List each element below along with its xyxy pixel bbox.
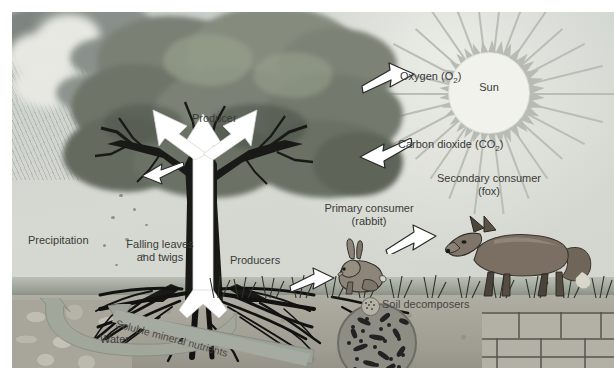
illustration-canvas: Sun Oxygen (O2) Carbon dioxide (CO2) (12, 12, 614, 368)
bacterium-dot (379, 327, 383, 331)
bacterium-dot (383, 339, 387, 343)
bacterium-rod (379, 312, 391, 324)
producers-label: Producers (230, 254, 280, 266)
bacterium-dot (397, 365, 401, 368)
bacterium-rod (350, 328, 358, 339)
bacterium-rod (353, 343, 369, 353)
decomposer-speck (368, 304, 370, 306)
decomposer-speck (370, 301, 372, 303)
precipitation-label: Precipitation (28, 234, 89, 246)
primary-consumer-line1: Primary consumer (312, 202, 426, 215)
bacterium-dot (361, 329, 365, 333)
bacterium-dot (355, 357, 359, 361)
bacterium-dot (351, 325, 355, 329)
falling-leaves-line1: Falling leaves (112, 238, 208, 251)
bacterium-dot (401, 353, 405, 357)
decomposer-speck (371, 308, 373, 310)
fox-secondary-consumer (444, 202, 594, 297)
carbon-dioxide-label: Carbon dioxide (CO2) (398, 138, 503, 153)
secondary-consumer-label: Secondary consumer (fox) (420, 172, 558, 198)
producer-label: Producer (192, 112, 237, 124)
decomposer-speck (366, 307, 368, 309)
bacterium-rod (398, 317, 409, 325)
secondary-consumer-line2: (fox) (420, 185, 558, 198)
oxygen-label: Oxygen (O2) (400, 70, 461, 85)
secondary-consumer-line1: Secondary consumer (420, 172, 558, 185)
ecosystem-diagram: Sun Oxygen (O2) Carbon dioxide (CO2) (0, 0, 614, 387)
bacterium-dot (397, 337, 401, 341)
bacterium-dot (375, 363, 379, 367)
grazing-arrow (288, 264, 338, 294)
rabbit-primary-consumer (330, 238, 390, 296)
oxygen-paren: ) (458, 70, 462, 82)
bacterium-rod (384, 363, 396, 368)
oxygen-label-text: Oxygen (O (400, 70, 453, 82)
decomposer-speck (373, 304, 375, 306)
falling-leaves-line2: and twigs (112, 251, 208, 264)
soil-decomposers-label: Soil decomposers (382, 298, 469, 310)
sun-disc (449, 53, 529, 133)
co2-paren: ) (500, 138, 504, 150)
bacterium-dot (347, 341, 351, 345)
bacterium-dot (365, 317, 369, 321)
falling-leaves-label: Falling leaves and twigs (112, 238, 208, 264)
decomposer-dot-icon (361, 297, 380, 316)
primary-consumer-label: Primary consumer (rabbit) (312, 202, 426, 228)
bacterium-dot (389, 357, 393, 361)
bacterium-dot (387, 323, 391, 327)
primary-consumer-line2: (rabbit) (312, 215, 426, 228)
water-label: Water (100, 333, 129, 345)
bacterium-rod (357, 316, 372, 326)
bacterium-dot (359, 339, 363, 343)
bacterium-dot (353, 367, 357, 368)
mineral-nutrients-arrow (108, 304, 318, 368)
leaf-litter-arrow (142, 162, 188, 198)
bacterium-dot (373, 345, 377, 349)
co2-label-text: Carbon dioxide (CO (398, 138, 495, 150)
